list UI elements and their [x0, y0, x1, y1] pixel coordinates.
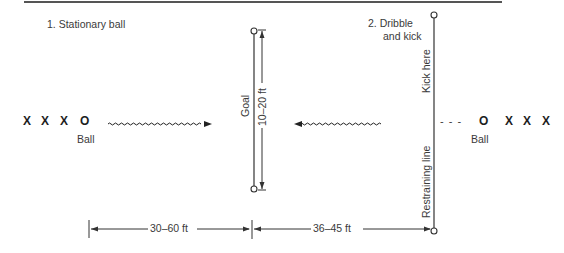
section-2-title: 2. Dribble and kick	[368, 17, 422, 43]
line-end-top-icon	[431, 12, 437, 18]
arrow-left-icon	[91, 227, 98, 232]
kick-path-right	[294, 121, 381, 127]
goal-post-top-icon	[251, 28, 257, 34]
distance-label-1: 30–60 ft	[148, 222, 190, 234]
ball-label-right: Ball	[471, 133, 489, 145]
player-x: X	[542, 114, 550, 128]
player-x: X	[41, 114, 49, 128]
section-2-title-line1: 2. Dribble	[368, 17, 422, 30]
player-x: X	[60, 114, 68, 128]
restraining-line-label: Restraining line	[420, 146, 432, 218]
line-end-bottom-icon	[431, 228, 437, 234]
arrow-down-icon	[260, 182, 265, 189]
distance-label-2: 36–45 ft	[311, 222, 353, 234]
goal-label: Goal	[239, 95, 251, 117]
arrow-up-icon	[260, 31, 265, 38]
player-x: X	[23, 114, 31, 128]
section-1-title: 1. Stationary ball	[47, 18, 125, 30]
section-2-title-line2: and kick	[368, 30, 422, 43]
kick-path-left	[108, 121, 212, 127]
goal-width-label: 10–20 ft	[256, 87, 268, 127]
ball-label-left: Ball	[77, 133, 95, 145]
arrow-right-icon	[243, 227, 250, 232]
arrow-left-icon	[254, 227, 261, 232]
player-x: X	[523, 114, 531, 128]
goal-post-bottom-icon	[251, 186, 257, 192]
player-x: X	[505, 114, 513, 128]
dribble-path-dashes: - - -	[440, 115, 462, 127]
kick-here-label: Kick here	[420, 49, 432, 93]
arrow-right-icon	[204, 121, 212, 127]
ball-icon: O	[80, 114, 89, 128]
arrow-left-icon	[294, 121, 302, 127]
arrow-right-icon	[424, 227, 431, 232]
ball-icon: O	[479, 114, 488, 128]
